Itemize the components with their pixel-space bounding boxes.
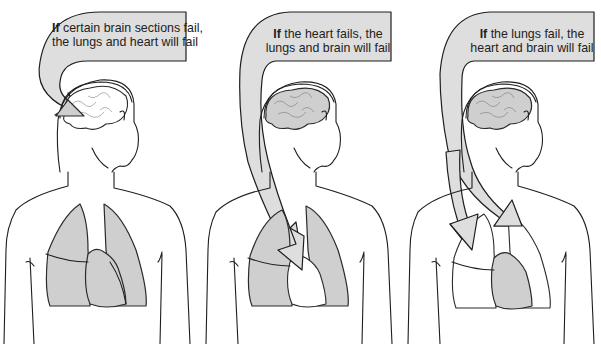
right-lung	[248, 210, 292, 306]
label-line-1: certain brain sections fail,	[60, 21, 203, 35]
label-line-2: lungs and brain will fail	[264, 41, 392, 55]
label-line-1: the heart fails, the	[281, 27, 383, 41]
panel-lung-failure	[408, 12, 594, 344]
label-line-2: the lungs and heart will fail	[52, 35, 182, 49]
diagram-canvas: If certain brain sections fail, the lung…	[0, 0, 601, 344]
armpit-right	[158, 252, 162, 344]
armpit-left	[26, 258, 34, 344]
label-bold-if: If	[52, 21, 60, 35]
brain	[468, 88, 532, 129]
panel-1-label: If certain brain sections fail, the lung…	[52, 21, 182, 49]
panel-brain-failure	[4, 12, 190, 344]
label-line-1: the lungs fail, the	[487, 27, 584, 41]
armpit-left	[230, 258, 238, 344]
jaw-line	[294, 148, 310, 168]
panel-heart-failure	[206, 12, 392, 344]
panel-3-label: If the lungs fail, the heart and brain w…	[468, 27, 596, 55]
label-bold-if: If	[273, 27, 281, 41]
right-lung	[46, 204, 90, 306]
jaw-line	[92, 148, 108, 168]
armpit-left	[432, 258, 440, 344]
brain	[266, 88, 330, 129]
armpit-right	[360, 252, 364, 344]
panel-2-label: If the heart fails, the lungs and brain …	[264, 27, 392, 55]
label-line-2: heart and brain will fail	[468, 41, 596, 55]
jaw-line	[496, 148, 512, 168]
armpit-right	[562, 252, 566, 344]
